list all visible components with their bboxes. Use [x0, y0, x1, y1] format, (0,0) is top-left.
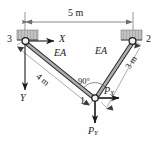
pin-node-2 [129, 38, 136, 45]
node-label-2: 2 [146, 34, 151, 44]
load-py-label: PY [88, 126, 98, 137]
pin-node-3 [22, 38, 29, 45]
right-member-property-label: EA [95, 46, 107, 56]
left-member-property-label: EA [54, 48, 66, 58]
node-label-1: 1 [80, 96, 85, 106]
node-label-3: 3 [7, 34, 12, 44]
load-px-subscript: X [110, 89, 114, 96]
figure-canvas: 3 2 1 5 m X Y EA EA 4 m 3 m 90° PX PY [0, 0, 162, 145]
axis-label-y: Y [20, 93, 26, 103]
right-angle-label: 90° [78, 77, 90, 86]
axis-label-x: X [59, 34, 65, 44]
truss-diagram-svg [0, 0, 162, 145]
pin-node-1 [92, 95, 98, 101]
load-px-label: PX [104, 86, 114, 97]
load-py-subscript: Y [94, 129, 98, 136]
span-dimension-label: 5 m [68, 8, 83, 18]
